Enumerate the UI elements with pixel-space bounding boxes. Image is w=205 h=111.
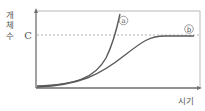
x-axis-label: 시기: [178, 96, 194, 106]
population-growth-chart: a b C 개 체 수 시기: [0, 0, 205, 111]
curve-a-j-shaped: [37, 14, 120, 86]
y-axis-label-char-3: 수: [6, 31, 14, 41]
curve-b-label: b: [187, 26, 192, 34]
capacity-label: C: [24, 30, 32, 41]
y-axis-label-char-1: 개: [6, 10, 14, 20]
curve-a-label: a: [121, 17, 125, 25]
curve-b-s-shaped: [37, 36, 194, 87]
y-axis-label-char-2: 체: [6, 20, 14, 30]
